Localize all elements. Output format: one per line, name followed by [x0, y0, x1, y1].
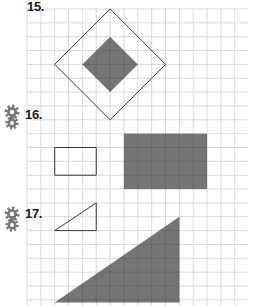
problem-number-17: 17.	[25, 206, 42, 221]
gear-icon	[2, 104, 22, 130]
gear-icon	[2, 206, 22, 232]
problem-number-15: 15.	[27, 0, 44, 14]
graph-paper	[0, 0, 262, 306]
problem-number-16: 16.	[25, 107, 42, 122]
large-triangle	[55, 217, 180, 303]
